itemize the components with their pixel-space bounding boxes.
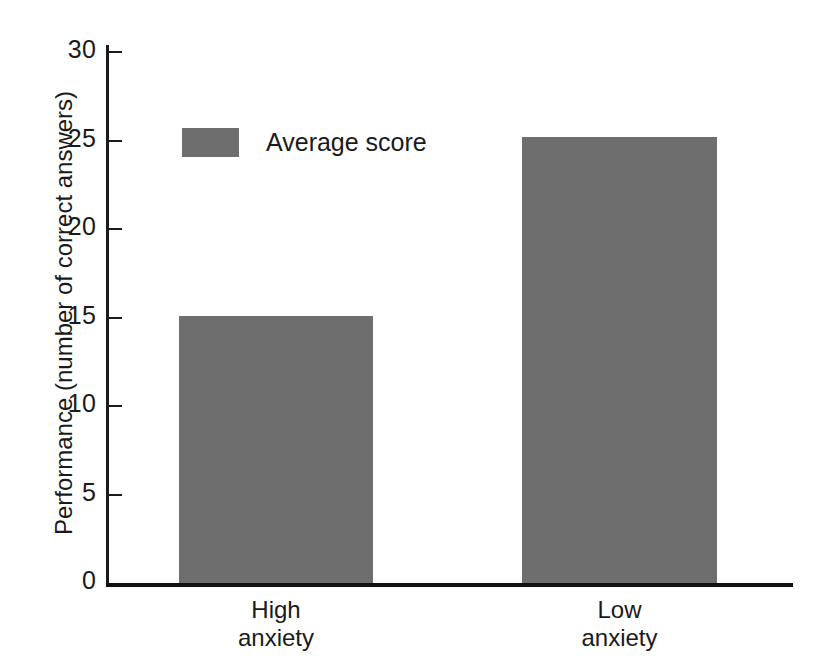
y-axis-tick-25 <box>109 140 122 142</box>
x-axis-label-low-anxiety: Low anxiety <box>522 596 717 653</box>
bar-chart-figure: Performance (number of correct answers) … <box>0 0 828 669</box>
y-axis-tick-label-20: 20 <box>36 212 96 241</box>
y-axis-tick-label-25: 25 <box>36 124 96 153</box>
legend: Average score <box>182 128 427 157</box>
y-axis-line <box>106 45 109 585</box>
legend-label-average-score: Average score <box>266 128 427 157</box>
y-axis-tick-label-15: 15 <box>36 301 96 330</box>
legend-swatch-average-score <box>182 128 239 157</box>
y-axis-tick-5 <box>109 494 122 496</box>
y-axis-tick-30 <box>109 51 122 53</box>
y-axis-tick-10 <box>109 405 122 407</box>
y-axis-tick-label-0: 0 <box>36 566 96 595</box>
bar-low-anxiety <box>522 137 717 583</box>
y-axis-tick-label-10: 10 <box>36 389 96 418</box>
y-axis-tick-15 <box>109 317 122 319</box>
x-axis-label-high-anxiety: High anxiety <box>179 596 373 653</box>
y-axis-tick-label-5: 5 <box>36 478 96 507</box>
x-axis-line <box>106 583 793 587</box>
y-axis-tick-20 <box>109 228 122 230</box>
y-axis-tick-label-30: 30 <box>36 35 96 64</box>
bar-high-anxiety <box>179 316 373 583</box>
